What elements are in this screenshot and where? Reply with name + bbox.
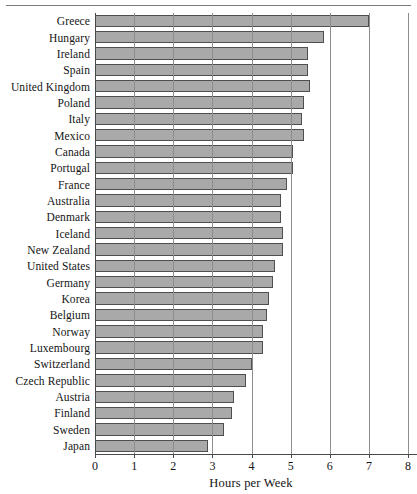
- bar: [95, 80, 310, 92]
- bar-row: Hungary: [0, 29, 417, 45]
- x-axis-title: Hours per Week: [95, 476, 407, 491]
- bar: [95, 194, 281, 206]
- category-label: Canada: [0, 146, 95, 158]
- category-label: Denmark: [0, 211, 95, 223]
- category-label: Sweden: [0, 424, 95, 436]
- bar: [95, 358, 252, 370]
- x-axis-tick: [95, 454, 96, 458]
- bar-track: [95, 29, 417, 45]
- category-label: Poland: [0, 97, 95, 109]
- bar-row: Australia: [0, 193, 417, 209]
- bar-row: Switzerland: [0, 356, 417, 372]
- category-label: Mexico: [0, 130, 95, 142]
- bar: [95, 31, 324, 43]
- bar-row: Finland: [0, 405, 417, 421]
- bar-row: Canada: [0, 144, 417, 160]
- category-label: Belgium: [0, 309, 95, 321]
- bar-row: Poland: [0, 95, 417, 111]
- bar: [95, 260, 275, 272]
- bar-row: Mexico: [0, 127, 417, 143]
- bar: [95, 407, 232, 419]
- bar-row: New Zealand: [0, 242, 417, 258]
- bar: [95, 325, 263, 337]
- bar-row: Luxembourg: [0, 340, 417, 356]
- category-label: New Zealand: [0, 244, 95, 256]
- category-label: United Kingdom: [0, 81, 95, 93]
- bar-track: [95, 324, 417, 340]
- category-label: Germany: [0, 277, 95, 289]
- bar: [95, 341, 263, 353]
- x-axis-tick-label: 6: [327, 459, 333, 473]
- category-label: Switzerland: [0, 358, 95, 370]
- category-label: Iceland: [0, 228, 95, 240]
- bar-track: [95, 291, 417, 307]
- bar-track: [95, 127, 417, 143]
- bar-row: Czech Republic: [0, 373, 417, 389]
- bar: [95, 162, 293, 174]
- category-label: Japan: [0, 440, 95, 452]
- bar-track: [95, 111, 417, 127]
- top-rule-divider: [6, 5, 411, 6]
- bar-track: [95, 144, 417, 160]
- bar: [95, 309, 267, 321]
- category-label: Italy: [0, 113, 95, 125]
- bar-row: Greece: [0, 13, 417, 29]
- bar-row: Sweden: [0, 422, 417, 438]
- category-label: Portugal: [0, 162, 95, 174]
- bar: [95, 211, 281, 223]
- x-axis-tick: [134, 454, 135, 458]
- bar-track: [95, 78, 417, 94]
- x-axis-tick-label: 7: [366, 459, 372, 473]
- category-label: Korea: [0, 293, 95, 305]
- x-axis-tick-label: 3: [209, 459, 215, 473]
- bar: [95, 113, 302, 125]
- x-axis-tick-label: 8: [405, 459, 411, 473]
- bar: [95, 96, 304, 108]
- bar-row: United States: [0, 258, 417, 274]
- bar: [95, 276, 273, 288]
- bar-row: Korea: [0, 291, 417, 307]
- bar-rows: GreeceHungaryIrelandSpainUnited KingdomP…: [0, 13, 417, 454]
- bar-row: Austria: [0, 389, 417, 405]
- bar-track: [95, 356, 417, 372]
- bar: [95, 391, 234, 403]
- bar-track: [95, 46, 417, 62]
- category-label: Norway: [0, 326, 95, 338]
- bar-track: [95, 225, 417, 241]
- bar: [95, 178, 287, 190]
- x-axis-tick-label: 4: [249, 459, 255, 473]
- bar-row: United Kingdom: [0, 78, 417, 94]
- bar-row: Japan: [0, 438, 417, 454]
- bar-track: [95, 242, 417, 258]
- category-label: Czech Republic: [0, 375, 95, 387]
- bar: [95, 129, 304, 141]
- bar-track: [95, 193, 417, 209]
- x-axis-tick: [369, 454, 370, 458]
- bar-row: France: [0, 176, 417, 192]
- bar-track: [95, 160, 417, 176]
- bar: [95, 145, 293, 157]
- bar-track: [95, 438, 417, 454]
- category-label: Spain: [0, 64, 95, 76]
- bar: [95, 423, 224, 435]
- category-label: Luxembourg: [0, 342, 95, 354]
- bar-row: Germany: [0, 275, 417, 291]
- bar-track: [95, 95, 417, 111]
- bar-row: Norway: [0, 324, 417, 340]
- x-axis-tick: [291, 454, 292, 458]
- x-axis-tick-label: 0: [92, 459, 98, 473]
- bar-row: Belgium: [0, 307, 417, 323]
- bar: [95, 15, 369, 27]
- bar: [95, 440, 208, 452]
- bar-track: [95, 373, 417, 389]
- bar-row: Italy: [0, 111, 417, 127]
- plot-area: GreeceHungaryIrelandSpainUnited KingdomP…: [0, 13, 417, 494]
- category-label: Australia: [0, 195, 95, 207]
- category-label: Ireland: [0, 48, 95, 60]
- bar-track: [95, 389, 417, 405]
- bar-track: [95, 13, 417, 29]
- x-axis-tick-label: 2: [170, 459, 176, 473]
- category-label: Austria: [0, 391, 95, 403]
- bar: [95, 227, 283, 239]
